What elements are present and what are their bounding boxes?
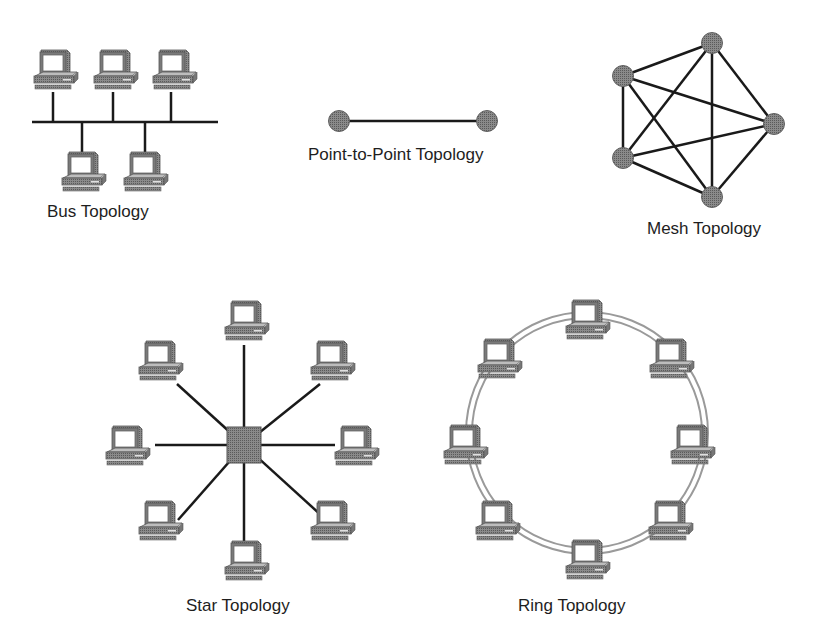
node-circle: [702, 187, 723, 208]
computer-icon: [649, 501, 693, 540]
computer-icon: [62, 152, 106, 191]
node-circle: [613, 148, 634, 169]
computer-icon: [311, 341, 355, 380]
star-topology-label: Star Topology: [186, 597, 290, 614]
bus-topology: [32, 50, 218, 191]
point-to-point-topology: [329, 111, 498, 132]
computer-icon: [444, 425, 488, 464]
computer-icon: [139, 501, 183, 540]
computer-icon: [225, 541, 269, 580]
computer-icon: [650, 339, 694, 378]
diagram-canvas: [0, 0, 833, 640]
computer-icon: [225, 301, 269, 340]
bus-topology-label: Bus Topology: [47, 203, 149, 220]
ring-topology-label: Ring Topology: [518, 597, 625, 614]
point-to-point-topology-label: Point-to-Point Topology: [308, 146, 483, 163]
node-circle: [329, 111, 350, 132]
computer-icon: [106, 426, 150, 465]
node-circle: [764, 114, 785, 135]
computer-icon: [335, 426, 379, 465]
mesh-topology-label: Mesh Topology: [647, 220, 761, 237]
computer-icon: [94, 50, 138, 89]
node-circle: [477, 111, 498, 132]
computer-icon: [153, 50, 197, 89]
node-circle: [702, 33, 723, 54]
computer-icon: [311, 501, 355, 540]
computer-icon: [124, 152, 168, 191]
mesh-topology: [613, 33, 785, 208]
computer-icon: [139, 341, 183, 380]
hub-square: [227, 427, 261, 463]
node-circle: [613, 66, 634, 87]
ring-topology: [444, 300, 715, 579]
computer-icon: [478, 339, 522, 378]
computer-icon: [34, 50, 78, 89]
network-topologies-diagram: Bus Topology Point-to-Point Topology Mes…: [0, 0, 833, 640]
star-topology: [106, 301, 379, 580]
